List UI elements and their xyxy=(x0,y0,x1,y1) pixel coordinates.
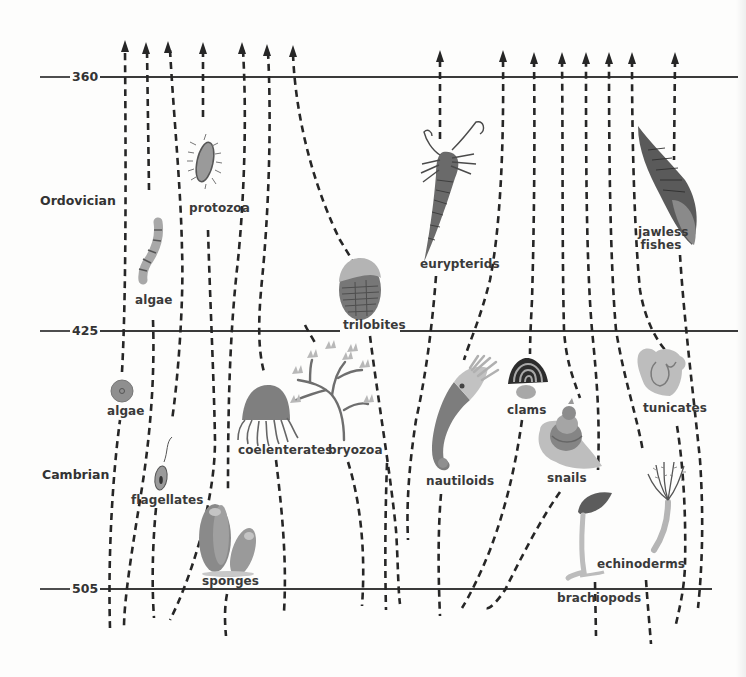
evolution-diagram: 360 425 505 Ordovician Cambrian algae pr… xyxy=(0,0,746,677)
sponges-illustration xyxy=(199,504,261,579)
bryozoa-illustration xyxy=(290,340,374,440)
lineage-eurypterids-lower xyxy=(407,276,436,540)
algae-filament-illustration xyxy=(139,222,162,280)
arrow-up-icon xyxy=(142,42,150,54)
arrow-up-icon xyxy=(238,42,246,54)
flagellate-illustration xyxy=(153,437,172,491)
nautiloid-illustration xyxy=(432,356,498,470)
echinoderm-illustration xyxy=(648,462,686,550)
arrow-up-icon xyxy=(199,42,207,54)
lineage-extra-lower xyxy=(385,463,387,610)
lineage-snails-lower xyxy=(486,492,560,608)
label-eurypterids: eurypterids xyxy=(420,258,500,271)
lineage-jawless-fishes-top xyxy=(674,60,675,160)
time-mark-425: 425 xyxy=(70,324,100,338)
arrow-up-icon xyxy=(671,52,679,64)
lineage-tunicates-upper xyxy=(632,60,667,352)
label-clams: clams xyxy=(507,404,546,417)
lineage-clams-lower xyxy=(462,420,522,608)
lineage-clams-upper xyxy=(530,60,534,354)
lineage-flagellates-lower xyxy=(153,508,156,618)
time-mark-360: 360 xyxy=(70,70,100,84)
time-mark-505: 505 xyxy=(70,582,100,596)
arrow-up-icon xyxy=(121,40,129,52)
clam-illustration xyxy=(508,358,548,399)
lineage-algae-ordovician-lower xyxy=(124,320,153,628)
tunicate-illustration xyxy=(637,349,685,396)
organism-illustrations xyxy=(111,122,697,579)
lineage-bryozoa-lower xyxy=(348,462,363,606)
lineage-brachiopods-upper xyxy=(586,60,599,470)
lineage-flagellates-upper xyxy=(170,50,182,420)
label-jawless-fishes: jawless fishes xyxy=(638,226,684,252)
trilobite-illustration xyxy=(339,258,381,320)
lineage-nautiloids-upper xyxy=(464,60,503,360)
lineage-sponges-lower xyxy=(225,594,227,636)
lineages xyxy=(109,40,702,644)
lineage-algae-ordovician-top xyxy=(147,50,149,190)
label-fishes: fishes xyxy=(638,239,684,252)
lineage-coelenterates-upper xyxy=(259,52,269,372)
arrow-up-icon xyxy=(530,52,538,64)
lineage-algae-cambrian xyxy=(109,50,125,628)
arrow-up-icon xyxy=(582,52,590,64)
label-coelenterates: coelenterates xyxy=(238,444,333,457)
label-trilobites: trilobites xyxy=(343,319,406,332)
label-bryozoa: bryozoa xyxy=(328,444,383,457)
eurypterid-illustration xyxy=(421,122,483,262)
period-ordovician: Ordovician xyxy=(40,193,116,208)
lineage-bryozoa-upper xyxy=(305,325,316,345)
arrow-up-icon xyxy=(499,50,507,62)
label-tunicates: tunicates xyxy=(643,402,707,415)
lineage-nautiloids-lower xyxy=(439,494,441,616)
label-brachiopods: brachiopods xyxy=(557,592,641,605)
label-protozoa: protozoa xyxy=(189,202,250,215)
lineage-tunicates-lower xyxy=(676,426,685,624)
lineage-trilobites-upper xyxy=(293,54,352,260)
arrow-up-icon xyxy=(558,52,566,64)
label-nautiloids: nautiloids xyxy=(426,475,494,488)
time-lines xyxy=(40,77,738,589)
arrow-up-icon xyxy=(436,50,444,62)
algae-cell-illustration xyxy=(111,380,133,402)
protozoa-illustration xyxy=(187,134,222,189)
label-flagellates: flagellates xyxy=(131,494,204,507)
arrow-up-icon xyxy=(263,44,271,56)
arrow-up-icon xyxy=(605,52,613,64)
diagram-canvas xyxy=(0,0,746,677)
coelenterate-illustration xyxy=(238,385,298,446)
arrow-up-icon xyxy=(164,41,172,53)
label-echinoderms: echinoderms xyxy=(597,558,685,571)
arrow-up-icon xyxy=(628,52,636,64)
lineage-jawless-fishes-lower xyxy=(680,255,702,608)
lineage-snails-upper xyxy=(562,60,580,398)
snail-illustration xyxy=(539,398,602,469)
label-snails: snails xyxy=(547,472,587,485)
label-algae-ordovician: algae xyxy=(135,294,173,307)
arrow-up-icon xyxy=(289,45,297,57)
label-algae-cambrian: algae xyxy=(107,405,145,418)
period-cambrian: Cambrian xyxy=(42,467,109,482)
label-sponges: sponges xyxy=(202,575,259,588)
